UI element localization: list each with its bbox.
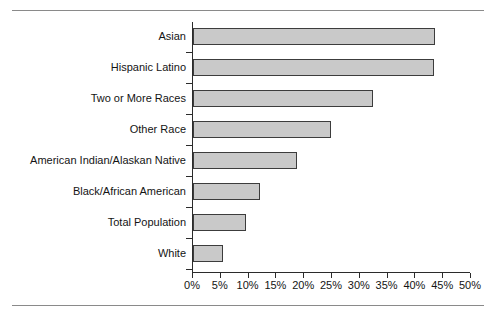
x-axis-tick (442, 273, 443, 278)
y-axis-tick (186, 145, 192, 146)
x-axis-tick (414, 273, 415, 278)
x-axis-tick-label: 50% (459, 280, 481, 291)
x-axis-tick-label: 30% (348, 280, 370, 291)
x-axis-tick (275, 273, 276, 278)
category-label: Other Race (130, 124, 186, 135)
bottom-divider-rule (12, 305, 484, 306)
x-axis-tick (303, 273, 304, 278)
x-axis-tick-label: 15% (264, 280, 286, 291)
bar (193, 121, 331, 138)
bar (193, 245, 223, 262)
x-axis-tick (220, 273, 221, 278)
y-axis-tick (186, 52, 192, 53)
bar (193, 183, 260, 200)
x-axis-tick (331, 273, 332, 278)
horizontal-bar-chart: AsianHispanic LatinoTwo or More RacesOth… (0, 0, 496, 319)
x-axis-tick (359, 273, 360, 278)
category-label: Hispanic Latino (111, 62, 186, 73)
x-axis-tick (470, 273, 471, 278)
category-label: White (158, 248, 186, 259)
y-axis-tick (186, 114, 192, 115)
y-axis-tick (186, 269, 192, 270)
x-axis-tick (387, 273, 388, 278)
category-label: American Indian/Alaskan Native (30, 155, 186, 166)
category-label: Two or More Races (91, 93, 186, 104)
category-label: Total Population (108, 217, 186, 228)
y-axis-tick (186, 176, 192, 177)
x-axis-tick-label: 35% (376, 280, 398, 291)
x-axis-tick (192, 273, 193, 278)
x-axis-tick-label: 10% (237, 280, 259, 291)
x-axis-tick-label: 5% (212, 280, 228, 291)
bar (193, 214, 246, 231)
y-axis-tick (186, 83, 192, 84)
x-axis-tick-label: 45% (431, 280, 453, 291)
bar (193, 90, 373, 107)
y-axis-tick (186, 238, 192, 239)
x-axis-tick-label: 20% (292, 280, 314, 291)
bar (193, 59, 434, 76)
bar (193, 28, 435, 45)
category-label: Asian (158, 31, 186, 42)
x-axis-tick-label: 25% (320, 280, 342, 291)
y-axis-tick (186, 207, 192, 208)
x-axis-tick-label: 40% (403, 280, 425, 291)
category-label: Black/African American (73, 186, 186, 197)
bar (193, 152, 297, 169)
x-axis-tick (248, 273, 249, 278)
x-axis-tick-label: 0% (184, 280, 200, 291)
